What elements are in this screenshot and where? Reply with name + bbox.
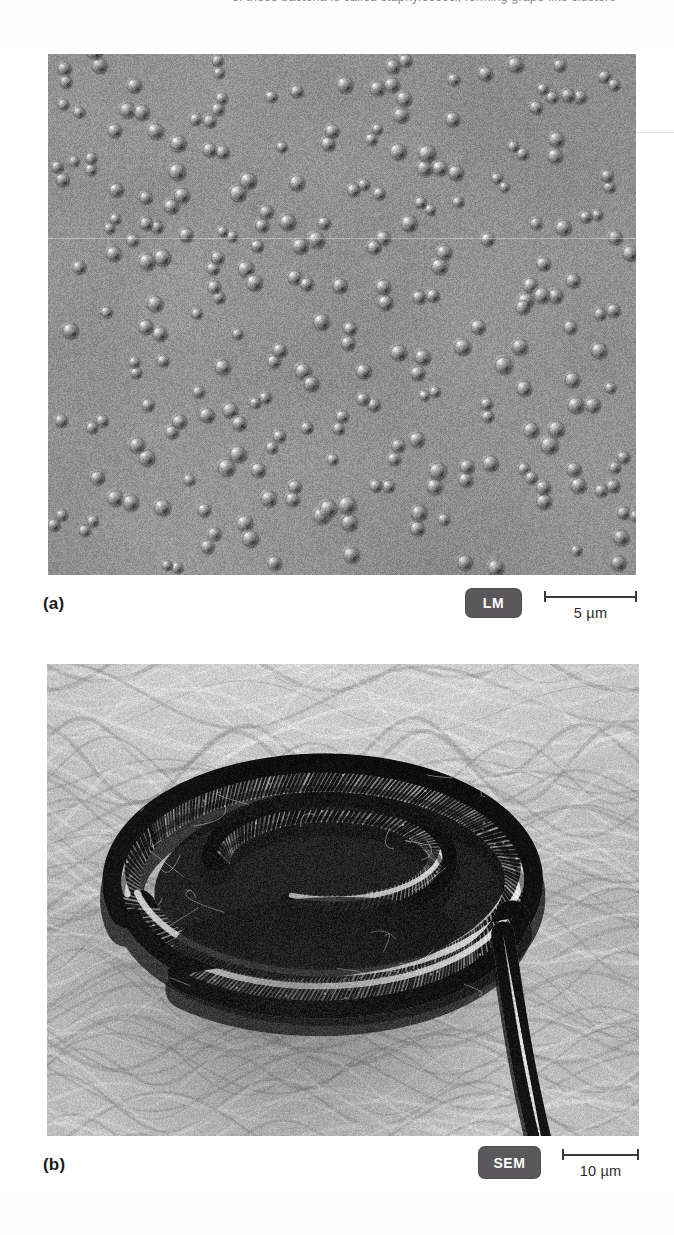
cropped-running-text: of these bacteria is called staphylococc… xyxy=(0,0,674,9)
panel-letter-a: (a) xyxy=(43,594,64,614)
scale-bar-cap-left-b xyxy=(562,1149,564,1160)
scale-bar-panel-b: 10 µm xyxy=(562,1149,639,1179)
scale-bar-cap-right-a xyxy=(635,591,637,602)
scale-bar-rule-a xyxy=(544,591,637,602)
scale-bar-rule-b xyxy=(562,1149,639,1160)
scale-bar-label-a: 5 µm xyxy=(544,605,637,621)
micrograph-panel-a xyxy=(48,54,636,575)
scanning-electron-micrograph-image xyxy=(47,664,639,1136)
scale-bar-label-b: 10 µm xyxy=(562,1163,639,1179)
scale-bar-cap-right-b xyxy=(637,1149,639,1160)
scale-bar-panel-a: 5 µm xyxy=(544,591,637,621)
scale-bar-cap-left-a xyxy=(544,591,546,602)
technique-badge-lm: LM xyxy=(465,588,522,618)
cropped-running-text-line: of these bacteria is called staphylococc… xyxy=(232,0,616,4)
scan-artifact-line-panel-a xyxy=(48,238,636,239)
light-micrograph-image xyxy=(48,54,636,575)
micrograph-panel-b xyxy=(47,664,639,1136)
scan-artifact-line xyxy=(636,132,674,133)
technique-badge-sem: SEM xyxy=(478,1146,541,1179)
panel-letter-b: (b) xyxy=(43,1155,65,1175)
